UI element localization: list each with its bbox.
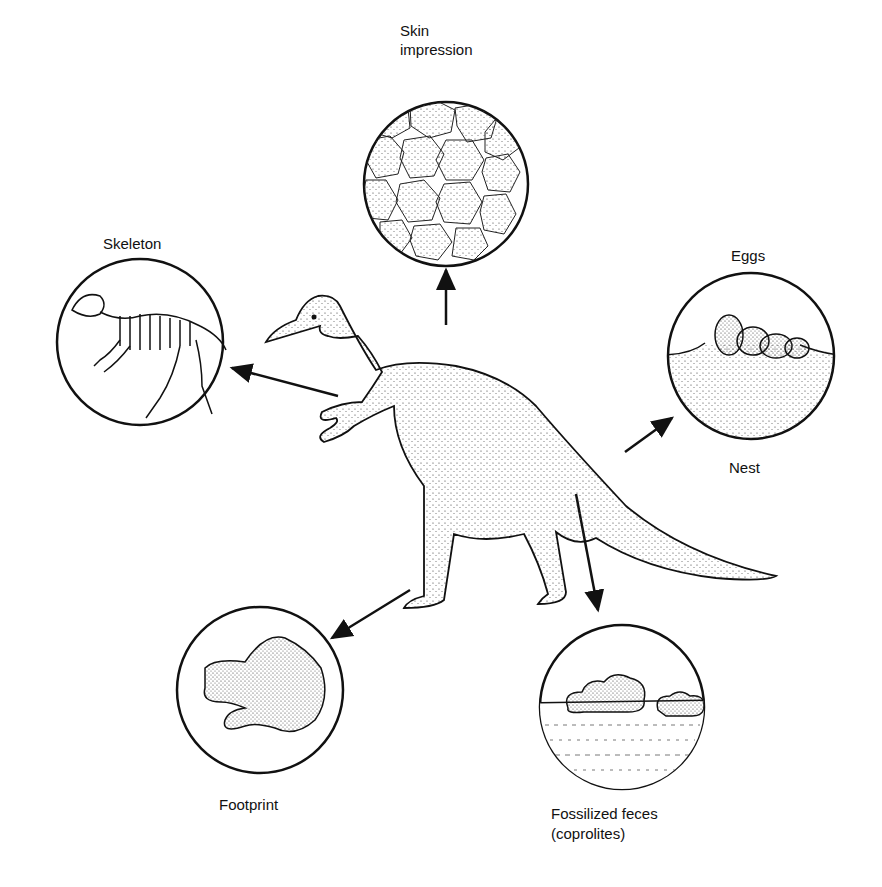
skin-impression-circle: [362, 100, 528, 266]
footprint-label: Footprint: [219, 796, 278, 814]
feces-label-line1: Fossilized feces: [551, 805, 658, 823]
feces-label-line2: (coprolites): [551, 825, 625, 843]
footprint-circle: [177, 607, 343, 773]
diagram-canvas: [0, 0, 882, 887]
arrow-to-eggs: [625, 418, 672, 452]
arrow-to-skeleton: [232, 368, 338, 396]
skeleton-circle: [57, 259, 226, 425]
eggs-nest-circle: [660, 273, 850, 450]
arrow-to-footprint: [332, 590, 410, 638]
skeleton-label: Skeleton: [103, 235, 161, 253]
coprolites-circle: [530, 625, 720, 800]
eggs-label: Eggs: [731, 247, 765, 265]
skin-label-line1: Skin: [400, 22, 429, 40]
nest-label: Nest: [729, 459, 760, 477]
skin-label-line2: impression: [400, 41, 473, 59]
